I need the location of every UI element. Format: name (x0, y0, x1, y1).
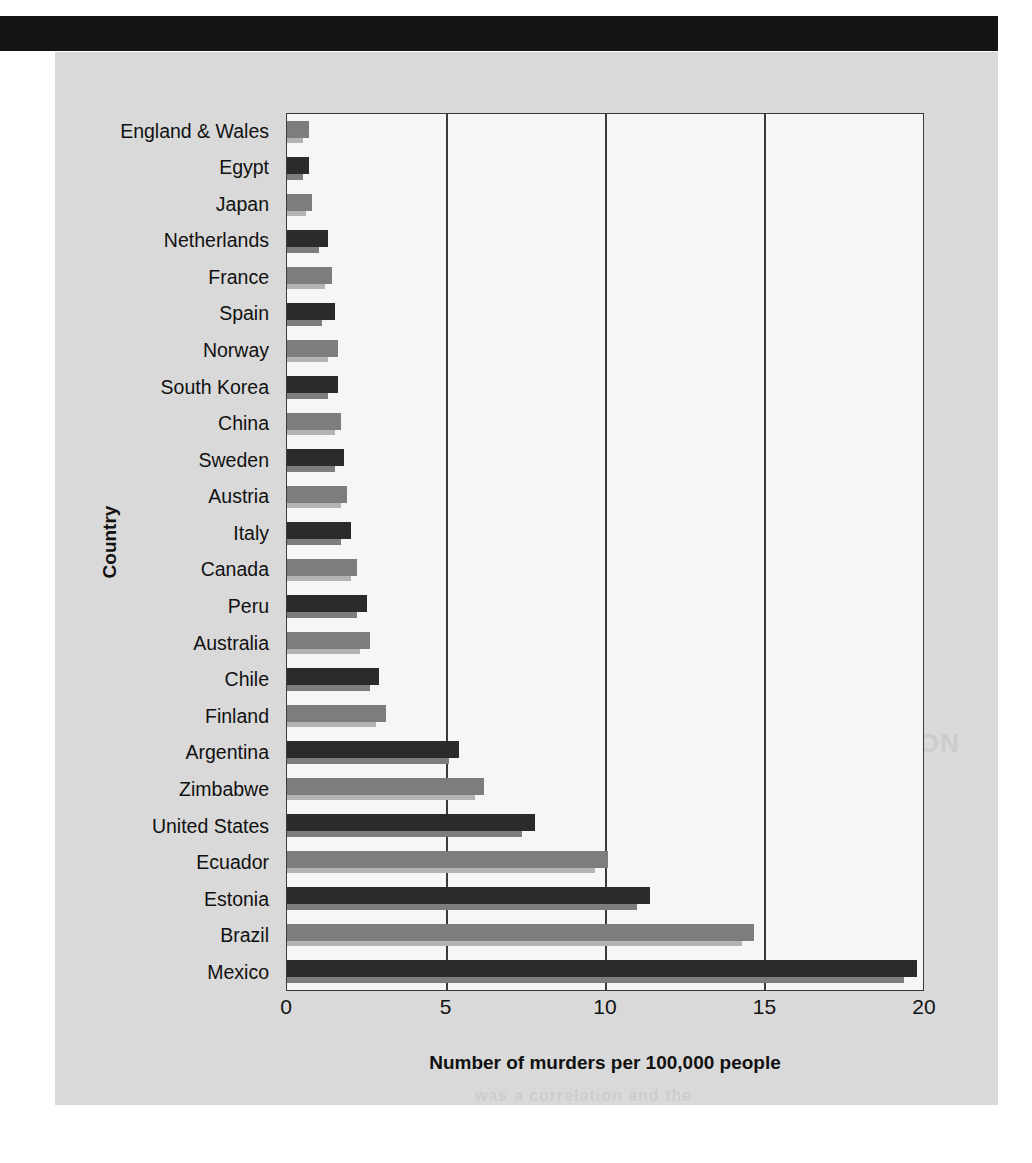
bar-row (287, 698, 923, 735)
category-label: Australia (95, 625, 278, 662)
bar-shadow (287, 831, 522, 836)
bar (287, 522, 351, 539)
category-label: Canada (95, 552, 278, 589)
category-label: Spain (95, 296, 278, 333)
bar-row (287, 224, 923, 261)
category-label: Argentina (95, 735, 278, 772)
bar-shadow (287, 539, 341, 544)
bar-row (287, 114, 923, 151)
bar (287, 814, 535, 831)
bar (287, 559, 357, 576)
bar-row (287, 370, 923, 407)
bar-shadow (287, 174, 303, 179)
bar (287, 267, 332, 284)
bar (287, 486, 347, 503)
bar (287, 121, 309, 138)
category-label: Netherlands (95, 223, 278, 260)
bar (287, 741, 459, 758)
bar (287, 157, 309, 174)
bar-shadow (287, 941, 742, 946)
bar-shadow (287, 138, 303, 143)
category-axis: England & WalesEgyptJapanNetherlandsFran… (95, 113, 278, 991)
category-label: Norway (95, 332, 278, 369)
bar (287, 595, 367, 612)
category-label: Japan (95, 186, 278, 223)
bar-rows (287, 114, 923, 990)
x-tick-label: 0 (280, 996, 292, 1017)
bar-shadow (287, 247, 319, 252)
bar (287, 668, 379, 685)
category-label: South Korea (95, 369, 278, 406)
category-label: China (95, 406, 278, 443)
bar-row (287, 625, 923, 662)
bar-shadow (287, 612, 357, 617)
bar-row (287, 260, 923, 297)
bar (287, 960, 917, 977)
category-label: Estonia (95, 881, 278, 918)
bar-row (287, 333, 923, 370)
bar-shadow (287, 466, 335, 471)
category-label: Austria (95, 479, 278, 516)
bar-row (287, 881, 923, 918)
category-label: Egypt (95, 150, 278, 187)
bar (287, 851, 608, 868)
bar-shadow (287, 868, 595, 873)
bar-row (287, 771, 923, 808)
x-tick-label: 15 (753, 996, 776, 1017)
bar-row (287, 808, 923, 845)
bar-shadow (287, 904, 637, 909)
category-label: Brazil (95, 918, 278, 955)
bar (287, 340, 338, 357)
bar (287, 705, 386, 722)
bar (287, 413, 341, 430)
bar-chart: Country England & WalesEgyptJapanNetherl… (55, 52, 998, 1105)
x-axis-ticks: 05101520 (286, 996, 924, 1026)
category-label: Sweden (95, 442, 278, 479)
figure-panel: METHODS OF INVESTIGATION Described more … (55, 52, 998, 1105)
category-label: France (95, 259, 278, 296)
bar-row (287, 917, 923, 954)
page-header-band (0, 16, 998, 51)
bar-shadow (287, 393, 328, 398)
bar-row (287, 187, 923, 224)
bar-shadow (287, 357, 328, 362)
bar (287, 632, 370, 649)
x-axis-title: Number of murders per 100,000 people (286, 1052, 924, 1074)
category-label: Italy (95, 515, 278, 552)
bar-shadow (287, 649, 360, 654)
category-label: United States (95, 808, 278, 845)
bar-row (287, 662, 923, 699)
bar-shadow (287, 430, 335, 435)
category-label: Ecuador (95, 845, 278, 882)
bar-row (287, 735, 923, 772)
bar-shadow (287, 722, 376, 727)
bar (287, 230, 328, 247)
bar (287, 449, 344, 466)
category-label: Zimbabwe (95, 771, 278, 808)
bar-shadow (287, 795, 475, 800)
bar-row (287, 589, 923, 626)
bar (287, 887, 650, 904)
bar (287, 376, 338, 393)
category-label: Chile (95, 662, 278, 699)
bar-row (287, 406, 923, 443)
bar (287, 924, 754, 941)
bar-row (287, 552, 923, 589)
category-label: Peru (95, 589, 278, 626)
bar-row (287, 443, 923, 480)
bar-shadow (287, 758, 449, 763)
bar-row (287, 516, 923, 553)
bar-row (287, 479, 923, 516)
bar-row (287, 151, 923, 188)
bar-row (287, 844, 923, 881)
bar-shadow (287, 576, 351, 581)
bar (287, 194, 312, 211)
x-tick-label: 5 (440, 996, 452, 1017)
x-tick-label: 20 (912, 996, 935, 1017)
bar-shadow (287, 685, 370, 690)
bar-shadow (287, 977, 904, 982)
bar-shadow (287, 211, 306, 216)
bar-shadow (287, 503, 341, 508)
bar-row (287, 297, 923, 334)
bar-shadow (287, 284, 325, 289)
